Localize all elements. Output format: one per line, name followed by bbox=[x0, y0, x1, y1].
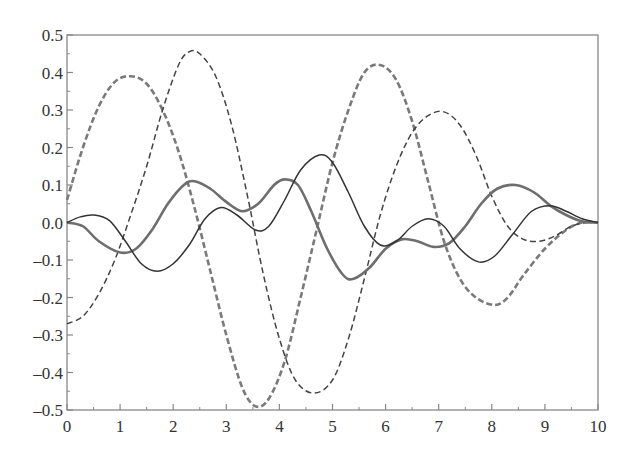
series-thin-solid bbox=[67, 155, 598, 272]
series-thick-solid bbox=[67, 179, 598, 279]
x-axis: 012345678910 bbox=[63, 404, 607, 436]
y-tick-label: 0.0 bbox=[42, 214, 63, 233]
y-tick-label: –0.3 bbox=[32, 326, 63, 345]
y-tick-label: –0.5 bbox=[32, 401, 63, 420]
y-tick-label: 0.2 bbox=[42, 139, 63, 158]
x-tick-label: 2 bbox=[169, 417, 178, 436]
y-tick-label: –0.1 bbox=[32, 251, 63, 270]
x-tick-label: 7 bbox=[434, 417, 443, 436]
x-tick-label: 5 bbox=[328, 417, 337, 436]
x-tick-label: 6 bbox=[381, 417, 390, 436]
series-layer bbox=[67, 51, 598, 407]
y-tick-label: 0.3 bbox=[42, 101, 63, 120]
y-tick-label: –0.4 bbox=[32, 364, 63, 383]
x-tick-label: 4 bbox=[275, 417, 284, 436]
y-tick-label: 0.4 bbox=[42, 64, 64, 83]
y-tick-label: –0.2 bbox=[32, 289, 63, 308]
plot-border bbox=[67, 35, 598, 410]
line-chart: 0.50.40.30.20.10.0–0.1–0.2–0.3–0.4–0.5 0… bbox=[0, 0, 630, 460]
series-thin-dashed bbox=[67, 51, 598, 394]
x-tick-label: 0 bbox=[63, 417, 72, 436]
x-tick-label: 1 bbox=[116, 417, 125, 436]
plot-frame bbox=[67, 35, 598, 410]
x-tick-label: 9 bbox=[541, 417, 550, 436]
x-tick-label: 3 bbox=[222, 417, 231, 436]
y-tick-label: 0.1 bbox=[42, 176, 63, 195]
x-tick-label: 8 bbox=[488, 417, 497, 436]
x-tick-label: 10 bbox=[590, 417, 607, 436]
y-tick-label: 0.5 bbox=[42, 26, 63, 45]
